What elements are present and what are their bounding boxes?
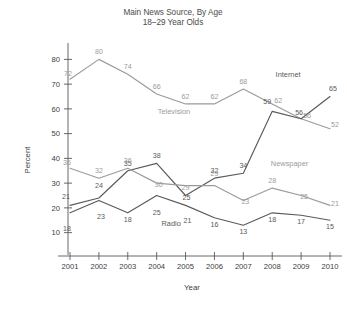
point-label-internet-2010: 65 xyxy=(329,85,337,93)
x-tick-label: 2004 xyxy=(148,262,165,271)
point-label-radio-2010: 15 xyxy=(326,223,334,231)
point-label-television-2001: 72 xyxy=(64,70,72,78)
series-label-internet: Internet xyxy=(276,70,301,79)
point-label-television-2010: 52 xyxy=(331,121,339,129)
y-tick-label: 40 xyxy=(52,154,60,163)
x-tick-label: 2005 xyxy=(177,262,194,271)
x-tick-label: 2009 xyxy=(293,262,310,271)
y-tick-label: 80 xyxy=(52,55,60,64)
point-label-television-2008: 62 xyxy=(274,97,282,105)
point-label-internet-2004: 38 xyxy=(153,152,161,160)
point-label-television-2006: 62 xyxy=(210,93,218,101)
point-label-internet-2002: 24 xyxy=(95,182,103,190)
y-tick-label: 20 xyxy=(52,204,60,213)
point-label-newspaper-2003: 36 xyxy=(124,157,132,165)
x-tick-label: 2002 xyxy=(90,262,107,271)
point-label-television-2009: 56 xyxy=(303,112,311,120)
series-lines xyxy=(70,59,330,225)
point-label-radio-2004: 25 xyxy=(153,209,161,217)
point-label-internet-2009: 56 xyxy=(295,109,303,117)
y-tick-label: 70 xyxy=(52,80,60,89)
x-tick-label: 2007 xyxy=(235,262,252,271)
x-tick-label: 2010 xyxy=(322,262,339,271)
chart-container: Main News Source, By Age 18–29 Year Olds… xyxy=(0,0,347,312)
x-tick-label: 2003 xyxy=(119,262,136,271)
series-label-newspaper: Newspaper xyxy=(271,159,309,168)
point-label-newspaper-2007: 23 xyxy=(241,198,249,206)
point-label-television-2003: 74 xyxy=(124,63,132,71)
chart-title: Main News Source, By Age xyxy=(123,8,223,17)
point-label-radio-2009: 17 xyxy=(297,218,305,226)
point-label-newspaper-2006: 29 xyxy=(210,170,218,178)
point-label-newspaper-2008: 28 xyxy=(268,177,276,185)
point-label-radio-2008: 18 xyxy=(268,216,276,224)
point-label-newspaper-2009: 25 xyxy=(300,193,308,201)
point-label-radio-2003: 18 xyxy=(124,216,132,224)
point-label-newspaper-2005: 29 xyxy=(182,184,190,192)
point-label-internet-2005: 25 xyxy=(183,194,191,202)
point-label-newspaper-2004: 30 xyxy=(155,181,163,189)
point-label-newspaper-2001: 36 xyxy=(63,159,71,167)
series-label-television: Television xyxy=(158,107,190,116)
point-label-radio-2005: 21 xyxy=(184,217,192,225)
chart-subtitle: 18–29 Year Olds xyxy=(143,18,204,27)
series-line-radio xyxy=(70,196,330,226)
line-chart: Main News Source, By Age 18–29 Year Olds… xyxy=(0,0,347,312)
point-label-radio-2002: 23 xyxy=(97,213,105,221)
x-tick-label: 2001 xyxy=(62,262,79,271)
point-label-radio-2001: 18 xyxy=(63,225,71,233)
point-label-radio-2006: 16 xyxy=(210,221,218,229)
y-tick-label: 50 xyxy=(52,129,60,138)
point-label-internet-2008: 59 xyxy=(263,98,271,106)
x-tick-label: 2008 xyxy=(264,262,281,271)
x-axis-title: Year xyxy=(184,283,200,292)
y-tick-label: 30 xyxy=(52,179,60,188)
point-label-newspaper-2002: 32 xyxy=(95,167,103,175)
point-label-television-2002: 80 xyxy=(95,48,103,56)
point-label-internet-2001: 21 xyxy=(62,193,70,201)
x-tick-label: 2006 xyxy=(206,262,223,271)
point-label-radio-2007: 13 xyxy=(239,228,247,236)
x-axis: 2001200220032004200520062007200820092010 xyxy=(58,252,342,271)
point-label-television-2004: 66 xyxy=(153,83,161,91)
series-name-labels: TelevisionInternetNewspaperRadio xyxy=(158,70,309,229)
point-label-television-2005: 62 xyxy=(182,93,190,101)
series-label-radio: Radio xyxy=(161,219,180,228)
point-label-newspaper-2010: 21 xyxy=(331,200,339,208)
point-label-television-2007: 68 xyxy=(239,78,247,86)
y-axis-title: Percent xyxy=(23,146,32,174)
point-label-internet-2007: 34 xyxy=(239,162,247,170)
series-line-internet xyxy=(70,97,330,206)
y-tick-label: 10 xyxy=(52,228,60,237)
y-tick-label: 60 xyxy=(52,105,60,114)
